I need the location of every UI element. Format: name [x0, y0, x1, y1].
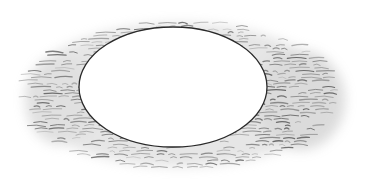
- sketch-illustration: [0, 0, 372, 187]
- oval-hole: [79, 27, 267, 147]
